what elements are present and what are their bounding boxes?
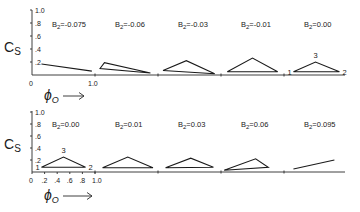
x-tick-label: 0: [29, 177, 33, 184]
tie-triangle: [100, 63, 150, 73]
svg-text:ϕO: ϕO: [44, 87, 59, 105]
vertex-label: 2: [342, 68, 346, 77]
panel: B2=0.06: [221, 120, 268, 174]
y-tick-label: .2: [35, 59, 41, 66]
vertex-label: 3: [314, 51, 318, 60]
vertex-label: 1: [287, 68, 291, 77]
x-tick-label: 1.0: [92, 177, 102, 184]
panel-label-b2: B2=0.01: [115, 120, 142, 130]
phase-diagram-figure: CS .2.4.6.81.0 0 1.0 ϕO B2=-0.075B2=-0.0…: [0, 0, 360, 212]
x-tick-label: .4: [54, 177, 60, 184]
y-tick-label: .6: [35, 33, 41, 40]
svg-text:ϕO: ϕO: [44, 187, 59, 205]
panel: B2=-0.06: [95, 20, 150, 77]
vertex-label: 2: [89, 163, 93, 172]
row-bottom: CS .2.4.6.81.0 0.2.4.6.81.0 ϕO B2=0.0013…: [4, 109, 345, 206]
panel-label-b2: B2=0.03: [178, 120, 205, 130]
panel-label-b2: B2=-0.06: [115, 20, 145, 30]
x-axis-label-phi: ϕO: [44, 187, 92, 205]
x-tick-1: 1.0: [88, 80, 98, 87]
panel: B2=0.095: [284, 120, 336, 174]
panel-label-b2: B2=-0.075: [52, 20, 86, 30]
y-tick-label: .6: [35, 133, 41, 140]
panel-label-b2: B2=0.095: [304, 120, 336, 130]
panel-label-b2: B2=0.06: [241, 120, 268, 130]
composition-line: [41, 64, 91, 71]
y-axis-label-cs: CS: [4, 39, 21, 57]
x-tick-label: .6: [67, 177, 73, 184]
panel-label-b2: B2=-0.01: [241, 20, 271, 30]
tie-triangle: [224, 159, 268, 170]
tie-triangle: [166, 158, 214, 168]
panel: B2=0.00132: [284, 20, 347, 77]
y-tick-label: .8: [35, 121, 41, 128]
panel: B2=-0.03: [158, 20, 215, 77]
tie-triangle: [41, 157, 85, 167]
panel-label-b2: B2=0.00: [52, 120, 79, 130]
x-tick-0: 0: [29, 80, 33, 87]
panel: B2=-0.01: [221, 20, 278, 77]
panel-label-b2: B2=-0.03: [178, 20, 208, 30]
panel: B2=-0.075: [41, 20, 91, 71]
tie-triangle: [103, 157, 153, 168]
y-tick-label: 1.0: [35, 109, 45, 116]
y-axis-label-cs: CS: [4, 136, 21, 154]
x-tick-label: .8: [79, 177, 85, 184]
x-tick-label: .2: [42, 177, 48, 184]
panel: B2=0.03: [158, 120, 213, 174]
y-tick-label: .4: [35, 145, 41, 152]
tie-triangle: [293, 62, 339, 72]
y-tick-label: .4: [35, 46, 41, 53]
panel: B2=0.01: [95, 120, 153, 174]
composition-line: [293, 160, 334, 169]
vertex-label: 1: [35, 163, 39, 172]
tie-triangle: [163, 61, 215, 74]
y-tick-label: .8: [35, 20, 41, 27]
tie-triangle: [227, 58, 277, 72]
x-axis-label-phi: ϕO: [44, 87, 84, 105]
panel: B2=0.00132: [35, 120, 92, 172]
y-tick-label: 1.0: [35, 7, 45, 14]
row-top: CS .2.4.6.81.0 0 1.0 ϕO B2=-0.075B2=-0.0…: [4, 7, 347, 106]
vertex-label: 3: [62, 146, 66, 155]
panel-label-b2: B2=0.00: [304, 20, 331, 30]
